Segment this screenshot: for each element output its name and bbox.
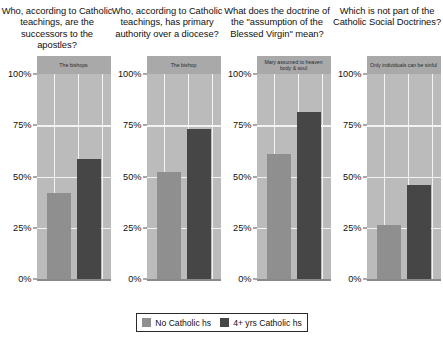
gridline-h-50 [367, 177, 441, 179]
panel-3-answer-band: Mary assumed to heaven body & soul [257, 56, 331, 74]
gridline-v-3 [322, 74, 324, 279]
panel-3-answer-label: Mary assumed to heaven body & soul [257, 59, 331, 72]
gridline-h-75 [147, 125, 221, 127]
panel-3: What does the doctrine of the "assumptio… [222, 4, 332, 300]
panel-4-question: Which is not part of the Catholic Social… [331, 4, 443, 56]
panel-1-tick-25: 25% [13, 223, 31, 233]
panel-4-tick-0: 0% [348, 274, 361, 284]
gridline-h-75 [367, 125, 441, 127]
legend-swatch-icon-no-catholic-hs [142, 318, 151, 327]
panel-1-tick-50: 50% [13, 172, 31, 182]
panel-2-y-axis: 100% 75% 50% 25% 0% [114, 56, 147, 284]
panel-2-question: Who, according to Catholic teachings, ha… [111, 4, 223, 56]
panel-3-tick-100: 100% [228, 69, 252, 79]
panel-4-tick-25: 25% [343, 223, 361, 233]
panel-1-y-axis: 100% 75% 50% 25% 0% [4, 56, 37, 284]
panel-1-plot-area [37, 74, 111, 279]
gridline-v-3 [212, 74, 214, 279]
panel-4-plot-area [367, 74, 441, 279]
panel-3-y-axis: 100% 75% 50% 25% 0% [224, 56, 257, 284]
panel-2-plot: The bishop [147, 56, 221, 284]
panel-4-plot: Only individuals can be sinful [367, 56, 441, 284]
chart-legend: No Catholic hs 4+ yrs Catholic hs [136, 313, 308, 332]
gridline-h-75 [37, 125, 111, 127]
panel-1-question: Who, according to Catholic teachings, ar… [1, 4, 113, 56]
panel-2-answer-label: The bishop [169, 62, 199, 68]
panel-3-plot-row: 100% 75% 50% 25% 0% Mary assumed to heav… [224, 56, 331, 294]
panel-3-tick-25: 25% [233, 223, 251, 233]
panel-2-plot-area [147, 74, 221, 279]
panel-1-answer-band: The bishops [37, 56, 111, 74]
panel-4-plot-row: 100% 75% 50% 25% 0% Only individuals can… [334, 56, 441, 294]
panel-4-answer-band: Only individuals can be sinful [367, 56, 441, 74]
panel-1-tick-75: 75% [13, 120, 31, 130]
panel-4-axis-base [367, 279, 441, 281]
bar-4plus-yrs-catholic-hs [407, 185, 431, 279]
bar-4plus-yrs-catholic-hs [187, 129, 211, 279]
panel-4-y-axis: 100% 75% 50% 25% 0% [334, 56, 367, 284]
legend-swatch-icon-4plus-yrs-catholic-hs [220, 318, 229, 327]
gridline-v-3 [102, 74, 104, 279]
panel-1-plot: The bishops [37, 56, 111, 284]
panel-3-axis-base [257, 279, 331, 281]
bar-no-catholic-hs [47, 193, 71, 279]
panel-3-tick-75: 75% [233, 120, 251, 130]
panel-row: Who, according to Catholic teachings, ar… [0, 0, 439, 300]
panel-4-tick-100: 100% [338, 69, 362, 79]
legend-label-4plus-yrs-catholic-hs: 4+ yrs Catholic hs [233, 318, 302, 328]
gridline-v-3 [432, 74, 434, 279]
panel-3-plot-area [257, 74, 331, 279]
panel-4-tick-50: 50% [343, 172, 361, 182]
panel-2-axis-base [147, 279, 221, 281]
panel-1-axis-base [37, 279, 111, 281]
bar-4plus-yrs-catholic-hs [297, 112, 321, 279]
panel-1: Who, according to Catholic teachings, ar… [2, 4, 112, 300]
panel-2-answer-band: The bishop [147, 56, 221, 74]
legend-item-4plus-yrs-catholic-hs: 4+ yrs Catholic hs [220, 318, 302, 328]
panel-1-tick-100: 100% [8, 69, 32, 79]
panel-2: Who, according to Catholic teachings, ha… [112, 4, 222, 300]
legend-item-no-catholic-hs: No Catholic hs [142, 318, 211, 328]
panel-1-tick-0: 0% [18, 274, 31, 284]
bar-no-catholic-hs [157, 172, 181, 279]
panel-3-question: What does the doctrine of the "assumptio… [221, 4, 333, 56]
panel-2-tick-0: 0% [128, 274, 141, 284]
panel-2-plot-row: 100% 75% 50% 25% 0% The bishop [114, 56, 221, 294]
panel-4-answer-label: Only individuals can be sinful [368, 62, 439, 68]
panel-3-tick-0: 0% [238, 274, 251, 284]
panel-2-tick-75: 75% [123, 120, 141, 130]
panel-2-tick-50: 50% [123, 172, 141, 182]
panel-4: Which is not part of the Catholic Social… [332, 4, 442, 300]
panel-3-tick-50: 50% [233, 172, 251, 182]
panel-1-answer-label: The bishops [57, 62, 89, 68]
panel-3-plot: Mary assumed to heaven body & soul [257, 56, 331, 284]
panel-2-tick-100: 100% [118, 69, 142, 79]
panel-2-tick-25: 25% [123, 223, 141, 233]
panel-1-plot-row: 100% 75% 50% 25% 0% The bishops [4, 56, 111, 294]
bar-no-catholic-hs [377, 225, 401, 279]
panel-4-tick-75: 75% [343, 120, 361, 130]
bar-4plus-yrs-catholic-hs [77, 159, 101, 279]
bar-no-catholic-hs [267, 154, 291, 279]
legend-label-no-catholic-hs: No Catholic hs [155, 318, 211, 328]
